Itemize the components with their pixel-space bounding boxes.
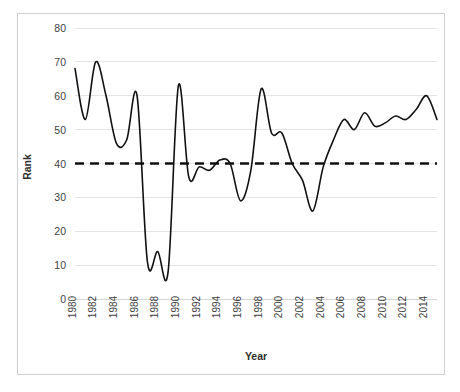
ytick-label-10: 10 — [54, 259, 66, 271]
xtick-label-2008: 2008 — [356, 295, 367, 318]
ytick-label-20: 20 — [54, 225, 66, 237]
ytick-label-60: 60 — [54, 90, 66, 102]
xtick-label-2000: 2000 — [273, 295, 284, 318]
y-axis-title: Rank — [21, 154, 33, 180]
x-axis-title: Year — [245, 350, 267, 362]
xtick-label-1998: 1998 — [253, 295, 264, 318]
ytick-label-30: 30 — [54, 191, 66, 203]
xtick-label-1986: 1986 — [129, 295, 140, 318]
xtick-label-1996: 1996 — [232, 295, 243, 318]
xtick-label-2004: 2004 — [315, 295, 326, 318]
xtick-label-2006: 2006 — [335, 295, 346, 318]
xtick-label-1990: 1990 — [170, 295, 181, 318]
xtick-label-1992: 1992 — [191, 295, 202, 318]
xtick-label-2014: 2014 — [418, 295, 429, 318]
ytick-label-50: 50 — [54, 124, 66, 136]
xtick-label-2012: 2012 — [397, 295, 408, 318]
xtick-label-1994: 1994 — [211, 295, 222, 318]
xtick-label-1980: 1980 — [67, 295, 78, 318]
xtick-label-1982: 1982 — [87, 295, 98, 318]
xtick-label-2002: 2002 — [294, 295, 305, 318]
xtick-label-1984: 1984 — [108, 295, 119, 318]
ytick-label-40: 40 — [54, 158, 66, 170]
xtick-label-2010: 2010 — [377, 295, 388, 318]
ytick-label-0: 0 — [60, 293, 66, 305]
rank-series-line — [75, 61, 437, 280]
ytick-label-80: 80 — [54, 22, 66, 34]
rank-by-year-chart: 80 70 60 50 40 30 20 10 0 1980 1982 1984… — [0, 0, 460, 392]
chart-plot-svg: 80 70 60 50 40 30 20 10 0 1980 1982 1984… — [0, 0, 460, 392]
ytick-label-70: 70 — [54, 56, 66, 68]
xtick-label-1988: 1988 — [149, 295, 160, 318]
y-axis-tick-labels: 80 70 60 50 40 30 20 10 0 — [54, 22, 66, 305]
